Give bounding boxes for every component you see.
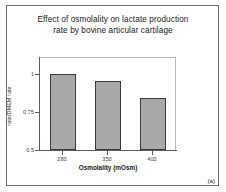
y-tick-mark-3 <box>35 150 40 151</box>
chart-title-line-1: Effect of osmolality on lactate producti… <box>14 14 212 25</box>
x-tick-mark-0 <box>62 151 63 155</box>
x-tick-label-2: 400 <box>132 156 172 162</box>
bar-slot-1 <box>85 58 130 150</box>
bar-2 <box>140 98 166 150</box>
figure-container: Effect of osmolality on lactate producti… <box>0 0 226 192</box>
chart-title-line-2: rate by bovine articular cartilage <box>14 25 212 36</box>
y-tick-label-2: 0.75 <box>23 109 34 115</box>
bar-1 <box>95 81 121 150</box>
bar-slot-2 <box>131 58 176 150</box>
panel-label: (a) <box>207 177 215 184</box>
x-tick-label-1: 350 <box>87 156 127 162</box>
x-axis-line <box>39 150 177 151</box>
chart-title: Effect of osmolality on lactate producti… <box>14 14 212 36</box>
bar-slot-0 <box>40 58 85 150</box>
y-axis-label: rate/DMEM rate <box>6 70 12 142</box>
x-tick-mark-1 <box>107 151 108 155</box>
plot-area <box>40 58 176 150</box>
x-tick-label-0: 280 <box>42 156 82 162</box>
x-axis-label: Osmolality (mOsm) <box>39 164 177 171</box>
bar-0 <box>50 74 76 150</box>
y-tick-label-3: 0.5 <box>26 147 34 153</box>
y-tick-label-1: 1 <box>31 71 34 77</box>
x-tick-mark-2 <box>152 151 153 155</box>
